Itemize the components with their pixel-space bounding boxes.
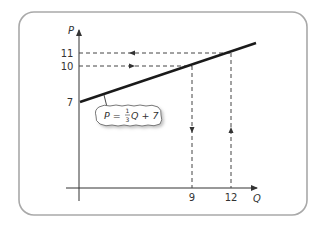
diagram-canvas: P Q 11 10 7 9 12 P = 1 3 Q + 7 <box>0 0 323 225</box>
equation-lhs: P = <box>104 110 121 121</box>
x-axis-label: Q <box>253 193 261 204</box>
diagram-frame <box>19 12 307 215</box>
equation-fraction-numerator: 1 <box>126 107 130 114</box>
y-tick-10: 10 <box>61 61 74 72</box>
equation-rhs: Q + 7 <box>131 110 159 121</box>
equation-fraction-denominator: 3 <box>126 116 130 123</box>
x-tick-9: 9 <box>189 192 195 203</box>
x-tick-12: 12 <box>225 192 238 203</box>
y-tick-7: 7 <box>67 97 73 108</box>
y-axis-label: P <box>68 25 75 36</box>
y-tick-11: 11 <box>61 48 74 59</box>
